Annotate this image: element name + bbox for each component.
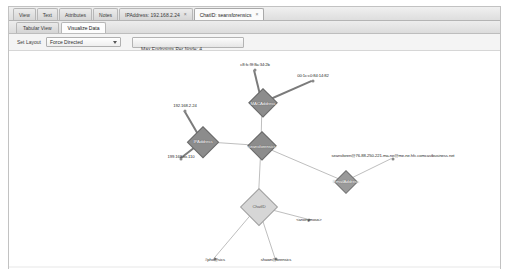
subtab-label: Visualize Data — [68, 25, 100, 31]
close-icon[interactable]: × — [255, 12, 258, 17]
secondary-tab-strip: Tabular ViewVisualize Data — [9, 21, 500, 34]
graph-endpoint-label-mac1: c8:fc:9f:8a:34:2b — [240, 62, 269, 67]
tab-chatid-seansforensics[interactable]: ChatID: seansforensics× — [194, 8, 265, 20]
tab-attributes[interactable]: Attributes — [59, 8, 92, 20]
graph-endpoint-dot[interactable] — [312, 80, 315, 83]
graph-endpoint-dot[interactable] — [254, 69, 257, 72]
set-layout-label: Set Layout — [17, 39, 41, 45]
graph-endpoint-label-ip2: 199.168.xx.110 — [168, 154, 195, 159]
graph-node-label: seansforensics — [248, 143, 276, 148]
tab-view[interactable]: View — [13, 8, 36, 20]
graph-edge — [261, 146, 345, 182]
application-window: ViewTextAttributesNotesIPAddress: 192.16… — [8, 6, 501, 269]
graph-endpoint-dot[interactable] — [184, 110, 187, 113]
graph-endpoint-label-chat3: shawn@orensics — [261, 257, 292, 262]
subtab-label: Tabular View — [23, 25, 52, 31]
graph-endpoint-label-chat1: <anonymous> — [296, 217, 321, 222]
tab-label: View — [19, 9, 30, 21]
canvas-bottom-strip — [9, 266, 500, 268]
graph-endpoint-label-ip1: 192.168.2.24 — [173, 103, 196, 108]
graph-node-label: ChatID — [252, 204, 265, 209]
tab-ipaddress-192-168-2-24[interactable]: IPAddress: 192.168.2.24× — [119, 8, 193, 20]
graph-edges — [9, 51, 500, 269]
layout-select[interactable]: Force Directed — [46, 37, 121, 47]
close-icon[interactable]: × — [184, 12, 187, 17]
graph-node-label: EmailAddress — [333, 180, 359, 185]
graph-toolbar: Set Layout Force Directed Max Endpoints … — [9, 34, 500, 50]
tab-label: IPAddress: 192.168.2.24 — [125, 9, 180, 21]
tab-label: ChatID: seansforensics — [200, 9, 252, 21]
tab-notes[interactable]: Notes — [93, 8, 118, 20]
graph-canvas[interactable]: MACAddressIPAddressseansforensicsEmailAd… — [9, 50, 500, 269]
graph-endpoint-label-mac2: 00:1c:c0:84:14:82 — [297, 73, 329, 78]
graph-endpoint-dot[interactable] — [392, 158, 395, 161]
graph-endpoint-label-chat2: #pho@sics — [205, 257, 225, 262]
graph-endpoint-label-email1: seansforen@76-88-250-221-ma-ne@me-ne.hfc… — [332, 153, 455, 158]
tab-label: Notes — [99, 9, 112, 21]
graph-node-label: IPAddress — [193, 140, 212, 145]
tab-label: Text — [43, 9, 52, 21]
primary-tab-strip: ViewTextAttributesNotesIPAddress: 192.16… — [9, 7, 500, 21]
graph-node-label: MACAddress — [251, 100, 276, 105]
tab-text[interactable]: Text — [37, 8, 58, 20]
subtab-visualize-data[interactable]: Visualize Data — [61, 22, 107, 33]
subtab-tabular-view[interactable]: Tabular View — [16, 22, 59, 33]
chevron-down-icon — [113, 41, 117, 44]
tab-label: Attributes — [65, 9, 86, 21]
layout-select-value: Force Directed — [47, 39, 83, 45]
